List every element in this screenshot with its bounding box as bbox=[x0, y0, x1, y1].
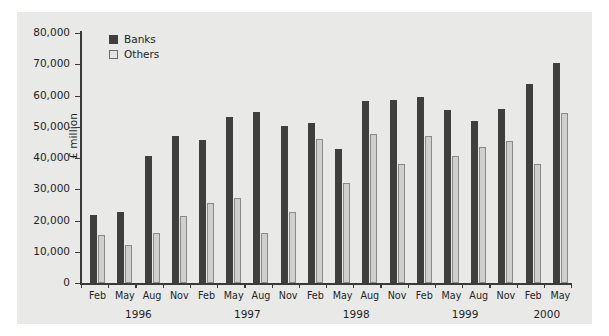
bar-banks bbox=[253, 112, 260, 283]
bar-group bbox=[335, 33, 350, 283]
bar-banks bbox=[145, 156, 152, 284]
x-axis-tick bbox=[135, 283, 136, 288]
bar-others bbox=[534, 164, 541, 283]
bar-others bbox=[316, 139, 323, 283]
y-axis-tick: 20,000 bbox=[75, 221, 80, 222]
x-axis-month-label: Feb bbox=[525, 290, 542, 301]
bar-group bbox=[145, 33, 160, 283]
x-axis-month-label: Aug bbox=[469, 290, 488, 301]
x-axis-year-label: 1997 bbox=[234, 308, 261, 320]
y-axis-tick-label: 80,000 bbox=[33, 26, 70, 38]
y-axis-tick: 60,000 bbox=[75, 96, 80, 97]
legend-swatch-others-icon bbox=[109, 50, 118, 59]
bar-others bbox=[343, 183, 350, 283]
bar-group bbox=[390, 33, 405, 283]
y-axis-tick-label: 20,000 bbox=[33, 214, 70, 226]
bar-group bbox=[308, 33, 323, 283]
bar-banks bbox=[90, 215, 97, 283]
bar-others bbox=[289, 212, 296, 283]
bar-others bbox=[370, 134, 377, 283]
bar-others bbox=[261, 233, 268, 283]
bar-group bbox=[117, 33, 132, 283]
chart-legend: Banks Others bbox=[109, 32, 159, 62]
bar-banks bbox=[390, 100, 397, 283]
bar-group bbox=[417, 33, 432, 283]
plot-area: 80,00070,00060,00050,00040,00030,00020,0… bbox=[80, 33, 570, 283]
bar-group bbox=[199, 33, 214, 283]
x-axis-month-label: Nov bbox=[388, 290, 407, 301]
x-axis-month-label: Aug bbox=[360, 290, 379, 301]
y-axis-tick-label: 30,000 bbox=[33, 182, 70, 194]
bar-banks bbox=[444, 110, 451, 283]
bar-group bbox=[90, 33, 105, 283]
x-axis-tick bbox=[217, 283, 218, 288]
bar-others bbox=[398, 164, 405, 283]
x-axis-tick bbox=[408, 283, 409, 288]
x-axis-tick bbox=[489, 283, 490, 288]
x-axis-year-label: 1999 bbox=[452, 308, 479, 320]
x-axis-month-label: May bbox=[224, 290, 244, 301]
bar-group bbox=[362, 33, 377, 283]
x-axis-month-label: May bbox=[550, 290, 570, 301]
bar-others bbox=[207, 203, 214, 283]
x-axis-month-label: Feb bbox=[198, 290, 215, 301]
bar-others bbox=[425, 136, 432, 283]
bar-banks bbox=[553, 63, 560, 283]
y-axis-tick: 50,000 bbox=[75, 127, 80, 128]
x-axis-month-label: Aug bbox=[143, 290, 162, 301]
x-axis-month-label: Feb bbox=[416, 290, 433, 301]
x-axis-tick bbox=[353, 283, 354, 288]
bar-banks bbox=[172, 136, 179, 283]
y-axis-tick-label: 70,000 bbox=[33, 57, 70, 69]
y-axis-tick-label: 10,000 bbox=[33, 245, 70, 257]
x-axis-month-label: May bbox=[115, 290, 135, 301]
x-axis-tick bbox=[244, 283, 245, 288]
x-axis-tick bbox=[81, 283, 82, 288]
bar-banks bbox=[417, 97, 424, 283]
bar-group bbox=[553, 33, 568, 283]
x-axis-year-label: 2000 bbox=[533, 308, 560, 320]
bar-group bbox=[226, 33, 241, 283]
legend-label-others: Others bbox=[124, 48, 159, 60]
bar-group bbox=[281, 33, 296, 283]
x-axis-month-label: May bbox=[442, 290, 462, 301]
bar-others bbox=[506, 141, 513, 283]
bar-group bbox=[444, 33, 459, 283]
bar-group bbox=[253, 33, 268, 283]
x-axis-tick bbox=[571, 283, 572, 288]
bar-banks bbox=[335, 149, 342, 283]
legend-item-banks: Banks bbox=[109, 32, 159, 46]
bar-group bbox=[172, 33, 187, 283]
x-axis-tick bbox=[380, 283, 381, 288]
y-axis-tick-label: 50,000 bbox=[33, 120, 70, 132]
x-axis-month-label: Aug bbox=[252, 290, 271, 301]
x-axis-tick bbox=[299, 283, 300, 288]
x-axis-tick bbox=[462, 283, 463, 288]
bar-banks bbox=[362, 101, 369, 283]
y-axis-tick: 70,000 bbox=[75, 64, 80, 65]
x-axis-tick bbox=[190, 283, 191, 288]
bar-others bbox=[479, 147, 486, 283]
legend-label-banks: Banks bbox=[124, 33, 156, 45]
bar-others bbox=[234, 198, 241, 283]
bar-group bbox=[526, 33, 541, 283]
bar-banks bbox=[498, 109, 505, 283]
legend-item-others: Others bbox=[109, 47, 159, 61]
x-axis-month-label: Feb bbox=[307, 290, 324, 301]
bar-banks bbox=[199, 140, 206, 283]
x-axis-month-label: Nov bbox=[279, 290, 298, 301]
x-axis-tick bbox=[272, 283, 273, 288]
x-axis-month-label: Nov bbox=[170, 290, 189, 301]
y-axis-tick-label: 40,000 bbox=[33, 151, 70, 163]
x-axis-tick bbox=[517, 283, 518, 288]
bar-chart-figure: £ million 80,00070,00060,00050,00040,000… bbox=[17, 12, 592, 324]
x-axis-tick bbox=[108, 283, 109, 288]
x-axis-year-label: 1996 bbox=[125, 308, 152, 320]
bar-banks bbox=[471, 121, 478, 284]
y-axis-tick: 80,000 bbox=[75, 33, 80, 34]
x-axis-year-label: 1998 bbox=[343, 308, 370, 320]
bar-banks bbox=[117, 212, 124, 283]
y-axis-tick-label: 60,000 bbox=[33, 89, 70, 101]
y-axis-tick: 0 bbox=[75, 283, 80, 284]
x-axis-tick bbox=[435, 283, 436, 288]
